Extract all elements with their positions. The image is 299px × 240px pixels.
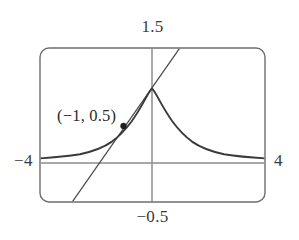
- x-max-label: 4: [274, 152, 283, 169]
- point-coordinate-label: (−1, 0.5): [57, 106, 116, 126]
- y-max-label: 1.5: [3, 18, 299, 35]
- y-min-label: −0.5: [3, 208, 299, 225]
- x-min-label: −4: [14, 152, 33, 169]
- graph-figure: [0, 0, 299, 240]
- tangency-point-marker: [121, 123, 127, 129]
